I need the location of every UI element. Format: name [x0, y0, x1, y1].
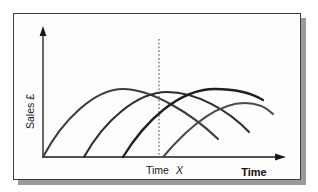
time-x-label-word: Time — [146, 164, 169, 176]
product-life-cycle-chart: Sales £ Time X Time — [14, 14, 300, 179]
x-axis-label: Time — [241, 166, 266, 178]
y-axis — [40, 26, 47, 157]
sales-curve-product-3 — [123, 89, 263, 157]
figure-root: Sales £ Time X Time — [0, 0, 318, 192]
y-axis-arrow-icon — [40, 26, 47, 36]
time-x-label-variable: X — [175, 164, 184, 176]
figure-frame: Sales £ Time X Time — [13, 13, 301, 180]
sales-curve-product-4 — [163, 103, 273, 157]
y-axis-label: Sales £ — [24, 94, 36, 129]
time-x-label: Time X — [146, 164, 184, 176]
x-axis-arrow-icon — [275, 153, 286, 160]
